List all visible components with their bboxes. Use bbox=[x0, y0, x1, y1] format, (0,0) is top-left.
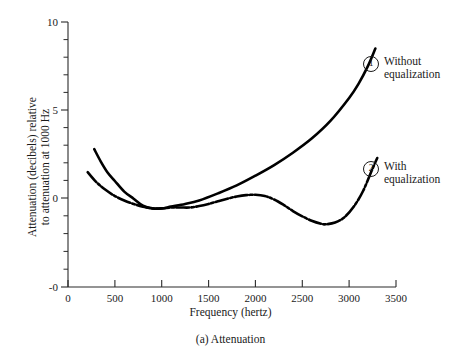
x-axis-major-ticks bbox=[68, 280, 396, 287]
x-tick-label-500: 500 bbox=[107, 292, 124, 304]
y-axis-title-line2: to attenuation at 1000 Hz bbox=[39, 52, 52, 282]
x-tick-label-3000: 3000 bbox=[338, 292, 360, 304]
y-tick-label-neg5: -0 bbox=[36, 281, 58, 293]
legend-item-with-equalization: 2 With equalization bbox=[363, 160, 440, 185]
legend-marker-2-icon: 2 bbox=[363, 161, 379, 177]
legend-marker-1-icon: 1 bbox=[363, 56, 379, 72]
x-tick-label-1500: 1500 bbox=[198, 292, 220, 304]
y-axis-title: Attenuation (decibels) relative to atten… bbox=[26, 52, 52, 282]
x-tick-label-2000: 2000 bbox=[244, 292, 266, 304]
legend-label-without-equalization: Without equalization bbox=[384, 55, 440, 80]
y-tick-label-10: 10 bbox=[40, 16, 58, 28]
y-axis-title-line1: Attenuation (decibels) relative bbox=[26, 52, 39, 282]
legend-label-with-equalization: With equalization bbox=[384, 160, 440, 185]
legend-item-without-equalization: 1 Without equalization bbox=[363, 55, 440, 80]
x-tick-label-3500: 3500 bbox=[385, 292, 407, 304]
x-tick-label-0: 0 bbox=[65, 292, 71, 304]
figure-caption: (a) Attenuation bbox=[0, 333, 461, 345]
curve-without-equalization bbox=[94, 49, 375, 209]
attenuation-figure: 10 5 0 -0 0 500 1000 1500 2000 2500 3000… bbox=[0, 0, 461, 359]
x-axis-title: Frequency (hertz) bbox=[0, 306, 461, 318]
y-axis-minor-ticks bbox=[64, 40, 69, 270]
y-axis-major-ticks bbox=[61, 22, 68, 287]
x-tick-label-1000: 1000 bbox=[151, 292, 173, 304]
x-tick-label-2500: 2500 bbox=[291, 292, 313, 304]
curve-with-equalization bbox=[88, 158, 378, 224]
